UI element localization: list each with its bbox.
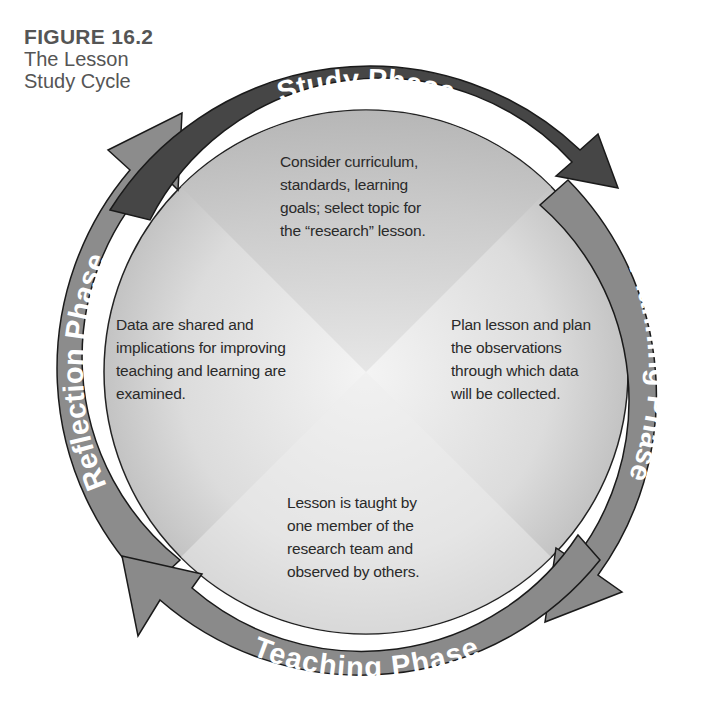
desc-line: Consider curriculum, (280, 150, 426, 173)
desc-line: goals; select topic for (280, 196, 426, 219)
desc-line: Lesson is taught by (287, 491, 419, 514)
study-phase-description: Consider curriculum, standards, learning… (280, 150, 426, 242)
desc-line: Plan lesson and plan (451, 313, 591, 336)
planning-phase-description: Plan lesson and plan the observations th… (451, 313, 591, 405)
reflection-phase-description: Data are shared and implications for imp… (116, 313, 286, 405)
desc-line: examined. (116, 382, 286, 405)
desc-line: standards, learning (280, 173, 426, 196)
desc-line: will be collected. (451, 382, 591, 405)
desc-line: teaching and learning are (116, 359, 286, 382)
study-phase-label: Study Phase (273, 63, 459, 108)
desc-line: the observations (451, 336, 591, 359)
lesson-study-cycle-diagram: Study Phase Planning Phase Teaching Phas… (0, 0, 708, 712)
desc-line: implications for improving (116, 336, 286, 359)
desc-line: the “research” lesson. (280, 219, 426, 242)
desc-line: Data are shared and (116, 313, 286, 336)
desc-line: research team and (287, 537, 419, 560)
desc-line: observed by others. (287, 560, 419, 583)
teaching-phase-description: Lesson is taught by one member of the re… (287, 491, 419, 583)
desc-line: one member of the (287, 514, 419, 537)
desc-line: through which data (451, 359, 591, 382)
